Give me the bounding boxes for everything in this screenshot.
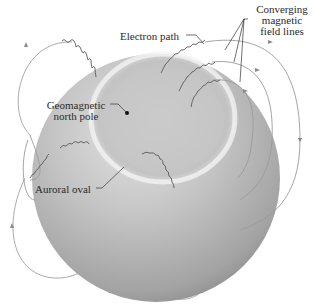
geomagnetic-north-pole-label: Geomagnetic north pole <box>44 100 108 122</box>
arrow-icon <box>24 42 28 47</box>
electron-path-top-left <box>62 40 96 78</box>
leader-converging-1 <box>225 19 248 50</box>
arrow-icon <box>268 40 273 44</box>
arrow-icon <box>255 68 260 72</box>
converging-label-line3: field lines <box>249 26 315 37</box>
geomagnetic-label-line2: north pole <box>44 111 108 122</box>
auroral-oval-label: Auroral oval <box>35 184 91 195</box>
electron-path-label: Electron path <box>120 31 179 42</box>
magnetosphere-diagram <box>0 0 315 306</box>
converging-field-lines-label: Converging magnetic field lines <box>249 4 315 37</box>
